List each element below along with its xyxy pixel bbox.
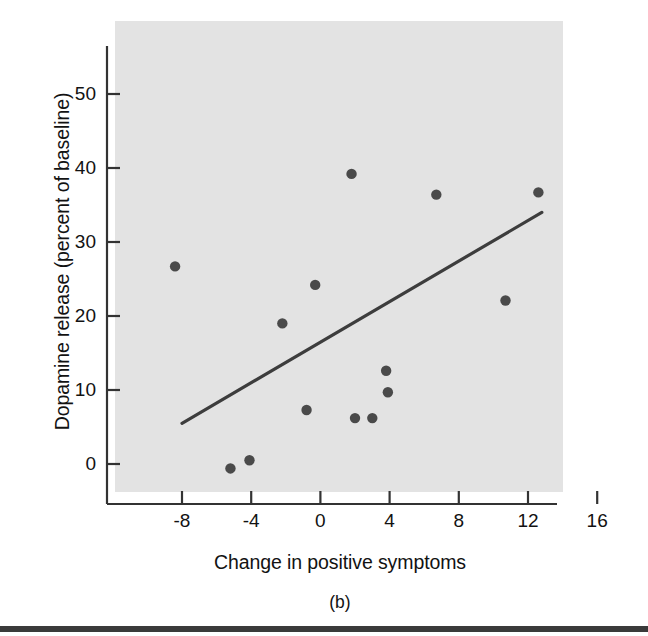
data-point [310, 280, 320, 290]
x-tick-label: -4 [227, 511, 275, 530]
y-axis-title: Dopamine release (percent of baseline) [51, 52, 74, 472]
x-tick-label: 12 [504, 511, 552, 530]
y-tick-label: 40 [52, 158, 96, 177]
data-point [301, 405, 311, 415]
y-tick-label: 0 [52, 454, 96, 473]
data-point [367, 413, 377, 423]
x-tick-label: 0 [296, 511, 344, 530]
panel-caption: (b) [115, 592, 565, 613]
y-tick-label: 10 [52, 380, 96, 399]
data-point [381, 366, 391, 376]
y-tick-label: 50 [52, 84, 96, 103]
data-point [225, 463, 235, 473]
data-point [431, 189, 441, 199]
figure-panel-b: Dopamine release (percent of baseline) 0… [0, 0, 648, 636]
data-point [346, 169, 356, 179]
data-point [170, 261, 180, 271]
data-point [500, 295, 510, 305]
y-tick-label: 20 [52, 306, 96, 325]
data-point [277, 318, 287, 328]
data-point [383, 387, 393, 397]
x-axis-title: Change in positive symptoms [115, 551, 565, 574]
x-tick-label: 4 [366, 511, 414, 530]
data-point [350, 413, 360, 423]
data-point [244, 455, 254, 465]
x-tick-label: -8 [158, 511, 206, 530]
footer-rule [0, 626, 648, 632]
x-tick-label: 16 [573, 511, 621, 530]
x-axis-ticks [182, 491, 597, 504]
x-tick-label: 8 [435, 511, 483, 530]
y-tick-label: 30 [52, 232, 96, 251]
data-point [533, 187, 543, 197]
scatter-plot-canvas [0, 0, 648, 636]
